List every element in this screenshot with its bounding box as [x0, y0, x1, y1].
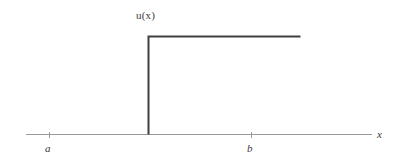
- plot-canvas: [0, 0, 400, 165]
- step-function-figure: u(x) x a b: [0, 0, 400, 165]
- function-label: u(x): [136, 10, 155, 21]
- x-tick-label-b: b: [247, 143, 253, 154]
- step-function-curve: [149, 37, 301, 135]
- x-axis-label: x: [377, 129, 382, 140]
- x-tick-label-a: a: [45, 143, 51, 154]
